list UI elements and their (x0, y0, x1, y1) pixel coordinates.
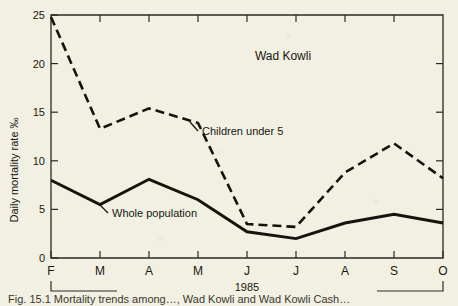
y-tick-label-0: 0 (39, 252, 45, 264)
x-tick-label-may: M (193, 264, 203, 278)
y-tick-label-10: 10 (33, 155, 45, 167)
caption-rule-right (377, 281, 443, 291)
whole-population-leader-line (100, 205, 108, 213)
y-tick-label-20: 20 (33, 58, 45, 70)
x-axis-year-label: 1985 (235, 281, 259, 293)
panel-title: Wad Kowli (255, 49, 311, 63)
x-axis-ticks (51, 251, 443, 258)
x-tick-label-oct: O (438, 264, 447, 278)
y-axis-ticks-right (436, 64, 443, 210)
figure-caption: Fig. 15.1 Mortality trends among…, Wad K… (8, 293, 350, 305)
x-tick-label-apr: A (145, 264, 153, 278)
y-tick-label-15: 15 (33, 106, 45, 118)
x-tick-label-mar: M (95, 264, 105, 278)
series-label-children-under-5: Children under 5 (202, 125, 283, 137)
caption-rule-left (51, 281, 117, 291)
x-axis-ticks-top (100, 15, 394, 22)
y-axis-title: Daily mortality rate ‰ (8, 117, 20, 222)
y-tick-label-25: 25 (33, 9, 45, 21)
x-tick-label-feb: F (47, 264, 54, 278)
y-tick-label-5: 5 (39, 203, 45, 215)
series-whole-population (51, 179, 443, 238)
series-children-under-5 (51, 17, 443, 227)
x-tick-label-aug: A (341, 264, 349, 278)
mortality-line-chart: 0 5 10 15 20 25 Daily mortality rate ‰ (0, 0, 458, 306)
figure-container: 0 5 10 15 20 25 Daily mortality rate ‰ (0, 0, 458, 306)
x-tick-label-sep: S (390, 264, 398, 278)
y-axis-ticks (51, 15, 58, 258)
series-label-whole-population: Whole population (112, 207, 197, 219)
x-tick-label-jul: J (293, 264, 299, 278)
x-tick-label-jun: J (244, 264, 250, 278)
